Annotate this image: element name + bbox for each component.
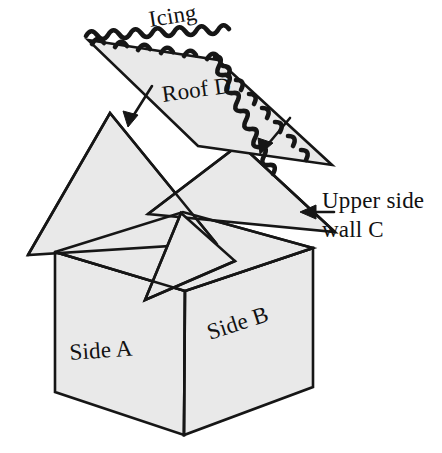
figure-root: Icing Roof D Upper side wall C Side A Si… [0, 0, 442, 453]
gingerbread-house-diagram: Icing Roof D Upper side wall C Side A Si… [0, 0, 442, 453]
label-side-a: Side A [69, 336, 134, 365]
label-upper-side-wall-line2: wall C [322, 217, 384, 242]
label-upper-side-wall-line1: Upper side [322, 188, 424, 213]
label-icing: Icing [147, 0, 199, 32]
box-front-vertical-edge [184, 291, 185, 435]
